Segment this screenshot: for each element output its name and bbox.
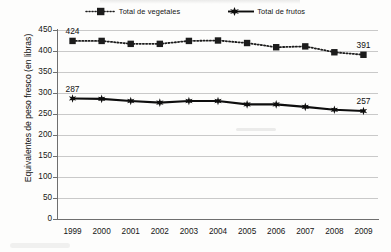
legend-item-frutos: Total de frutos (224, 7, 305, 16)
data-point-marker (244, 40, 250, 46)
data-point-marker (331, 49, 337, 55)
y-axis-tick-labels: 050100150200250300350400450 (22, 0, 52, 252)
y-tick-label: 100 (26, 173, 52, 181)
point-value-label: 287 (66, 84, 80, 94)
cropped-title-remnant (100, 0, 300, 4)
y-tick-label: 0 (26, 215, 52, 223)
x-tick-label: 2009 (354, 227, 372, 236)
x-tick-label: 2005 (238, 227, 256, 236)
point-value-label: 257 (357, 96, 371, 106)
data-point-marker (186, 38, 192, 44)
y-tick-label: 300 (26, 89, 52, 97)
y-tick-mark (53, 219, 57, 220)
x-tick-label: 2004 (209, 227, 227, 236)
data-point-marker (128, 41, 134, 47)
x-tick-label: 2003 (180, 227, 198, 236)
x-axis-tick-labels: 1999200020012002200320042005200620072008… (58, 227, 378, 239)
y-tick-label: 400 (26, 47, 52, 55)
y-tick-mark (53, 51, 57, 52)
line-chart: Total de vegetales Total de frutos Equiv… (0, 0, 391, 252)
data-point-marker (302, 43, 308, 49)
legend-item-vegetales: Total de vegetales (86, 7, 180, 16)
x-tick-label: 2008 (325, 227, 343, 236)
solid-star-key-icon (224, 7, 254, 16)
y-tick-label: 50 (26, 194, 52, 202)
y-tick-label: 150 (26, 152, 52, 160)
y-tick-mark (53, 198, 57, 199)
data-point-marker (360, 52, 366, 58)
x-tick-label: 2007 (296, 227, 314, 236)
legend-label-frutos: Total de frutos (257, 7, 305, 16)
y-tick-label: 450 (26, 26, 52, 34)
y-tick-mark (53, 30, 57, 31)
x-tick-label: 1999 (63, 227, 81, 236)
x-tick-label: 2000 (92, 227, 110, 236)
y-tick-mark (53, 156, 57, 157)
y-tick-label: 250 (26, 110, 52, 118)
x-tick-label: 2002 (151, 227, 169, 236)
data-point-marker (69, 38, 75, 44)
y-tick-label: 350 (26, 68, 52, 76)
data-point-marker (273, 44, 279, 50)
y-tick-mark (53, 135, 57, 136)
legend-label-vegetales: Total de vegetales (119, 7, 180, 16)
scan-artifact (236, 128, 276, 131)
x-tick-label: 2006 (267, 227, 285, 236)
dotted-square-key-icon (86, 7, 116, 16)
y-tick-label: 200 (26, 131, 52, 139)
data-point-marker (215, 37, 221, 43)
x-axis-line (57, 219, 379, 220)
data-point-marker (98, 38, 104, 44)
scan-artifact (10, 243, 70, 248)
y-tick-mark (53, 93, 57, 94)
data-point-marker (157, 41, 163, 47)
plot-area (58, 30, 378, 219)
point-value-label: 424 (66, 26, 80, 36)
point-value-label: 391 (357, 40, 371, 50)
chart-legend: Total de vegetales Total de frutos (0, 5, 391, 18)
y-tick-mark (53, 177, 57, 178)
y-tick-mark (53, 72, 57, 73)
series-layer (58, 30, 378, 219)
x-tick-label: 2001 (122, 227, 140, 236)
y-tick-mark (53, 114, 57, 115)
